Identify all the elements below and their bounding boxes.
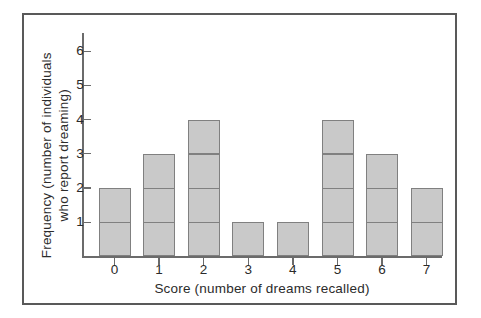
bar-unit-divider bbox=[100, 222, 130, 223]
y-axis-title: Frequency (number of individuals who rep… bbox=[38, 40, 73, 270]
x-tick-label: 7 bbox=[407, 263, 447, 278]
histogram-bar bbox=[188, 120, 220, 257]
bar-unit-divider bbox=[189, 153, 219, 154]
x-axis-title: Score (number of dreams recalled) bbox=[82, 281, 442, 296]
y-axis-title-line-2: who report dreaming) bbox=[55, 40, 72, 270]
x-tick-label: 6 bbox=[362, 263, 402, 278]
bar-unit-divider bbox=[412, 222, 442, 223]
bar-unit-divider bbox=[367, 222, 397, 223]
bar-unit-divider bbox=[323, 222, 353, 223]
y-tick-mark bbox=[84, 51, 91, 52]
x-tick-label: 4 bbox=[273, 263, 313, 278]
x-tick-label: 3 bbox=[228, 263, 268, 278]
histogram-bar bbox=[366, 154, 398, 257]
histogram-bar bbox=[277, 222, 309, 256]
bar-unit-divider bbox=[367, 188, 397, 189]
x-axis-line bbox=[82, 256, 442, 258]
histogram-bar bbox=[232, 222, 264, 256]
y-tick-mark bbox=[84, 222, 91, 223]
y-tick-mark bbox=[84, 119, 91, 120]
bar-unit-divider bbox=[144, 222, 174, 223]
bar-unit-divider bbox=[189, 222, 219, 223]
histogram-bar bbox=[322, 120, 354, 257]
figure-container: 123456 01234567 Score (number of dreams … bbox=[0, 0, 481, 318]
histogram-bar bbox=[143, 154, 175, 257]
histogram-bar bbox=[411, 188, 443, 256]
bar-unit-divider bbox=[189, 188, 219, 189]
y-tick-mark bbox=[84, 85, 91, 86]
histogram-bar bbox=[99, 188, 131, 256]
bar-unit-divider bbox=[323, 153, 353, 154]
y-tick-mark bbox=[84, 153, 91, 154]
x-tick-label: 0 bbox=[95, 263, 135, 278]
bar-unit-divider bbox=[323, 188, 353, 189]
y-tick-mark bbox=[84, 187, 91, 188]
x-tick-label: 2 bbox=[184, 263, 224, 278]
y-axis-title-line-1: Frequency (number of individuals bbox=[38, 40, 55, 270]
x-tick-label: 1 bbox=[139, 263, 179, 278]
histogram-plot: 123456 01234567 Score (number of dreams … bbox=[0, 0, 481, 318]
x-tick-label: 5 bbox=[318, 263, 358, 278]
bar-unit-divider bbox=[144, 188, 174, 189]
